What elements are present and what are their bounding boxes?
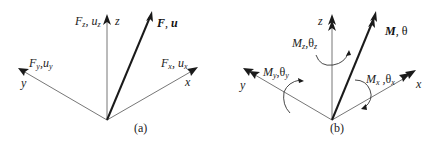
panel-a-forces: Fz, uz z F, u Fy,uy y Fx, ux x (a) bbox=[18, 11, 198, 135]
axis-label-x-a: x bbox=[184, 75, 191, 89]
resultant-force-a bbox=[107, 17, 150, 120]
caption-b: (b) bbox=[330, 121, 344, 135]
label-my-thetay: My,θy bbox=[262, 65, 289, 80]
label-mx-thetax: Mx ,θx bbox=[365, 72, 395, 87]
label-fy-uy: Fy,uy bbox=[28, 56, 53, 71]
label-fz-uz: Fz, uz bbox=[74, 14, 101, 29]
label-fx-ux: Fx, ux bbox=[160, 56, 188, 71]
axis-label-z-a: z bbox=[114, 14, 120, 28]
label-m-theta: M, θ bbox=[384, 24, 408, 38]
axis-label-x-b: x bbox=[415, 77, 422, 91]
coordinate-diagram: Fz, uz z F, u Fy,uy y Fx, ux x (a) z bbox=[0, 0, 439, 147]
axis-label-y-a: y bbox=[20, 76, 27, 90]
x-axis-a bbox=[107, 71, 192, 120]
y-axis-b bbox=[250, 72, 332, 120]
axis-label-z-b: z bbox=[317, 14, 323, 28]
label-mz-thetaz: Mz,θz bbox=[291, 36, 318, 51]
axis-label-y-b: y bbox=[239, 78, 246, 92]
caption-a: (a) bbox=[134, 121, 147, 135]
label-f-u: F, u bbox=[156, 16, 178, 30]
panel-b-moments: z Mz,θz M, θ My,θy y Mx ,θx x (b) bbox=[239, 11, 422, 135]
arrowhead-icon bbox=[18, 68, 29, 76]
y-axis-a bbox=[23, 71, 107, 120]
